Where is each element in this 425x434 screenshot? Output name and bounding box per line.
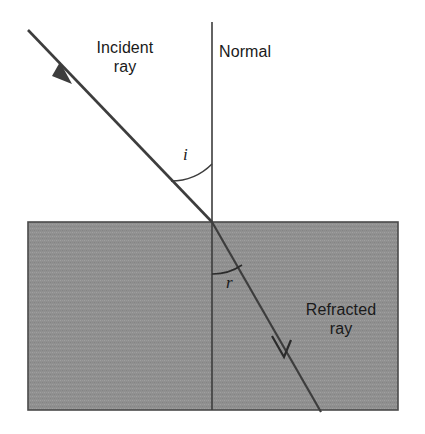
- incident-ray-label: Incident ray: [77, 38, 173, 76]
- refracted-ray-label: Refracted ray: [289, 300, 393, 338]
- refraction-illustration: [0, 0, 425, 434]
- angle-of-incidence-label: i: [183, 146, 188, 163]
- refraction-diagram: Incident ray Normal Refracted ray i r: [0, 0, 425, 434]
- angle-of-incidence-arc: [171, 164, 212, 181]
- normal-label: Normal: [219, 42, 299, 61]
- angle-of-refraction-label: r: [226, 274, 233, 291]
